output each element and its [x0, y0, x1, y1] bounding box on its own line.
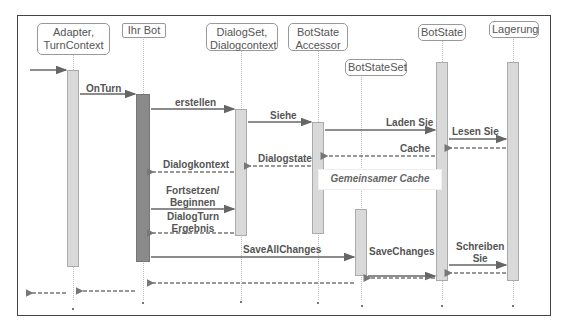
lifeline-end-adapter [72, 308, 74, 310]
lifeline-end-dialogset [240, 301, 242, 303]
lifeline-end-bot [142, 302, 144, 304]
msg-schreiben-line1: Schreiben [456, 241, 504, 253]
msg-laden: Laden Sie [386, 117, 433, 129]
msg-fortsetzen-line1: Fortsetzen/ [166, 185, 219, 197]
lifeline-end-botstate [441, 305, 443, 307]
msg-cache: Cache [400, 143, 430, 155]
msg-dialogkontext: Dialogkontext [163, 159, 229, 171]
msg-fortsetzen-line2: Beginnen [166, 197, 219, 209]
msg-erstellen: erstellen [175, 97, 216, 109]
msg-schreiben-line2: Sie [456, 253, 504, 265]
message-arrows [0, 0, 569, 332]
msg-schreiben: Schreiben Sie [456, 241, 504, 265]
msg-savechanges: SaveChanges [369, 246, 435, 258]
msg-saveallchanges: SaveAllChanges [243, 244, 321, 256]
msg-onturn: OnTurn [86, 83, 121, 95]
lifeline-end-accessor [317, 302, 319, 304]
msg-lesen: Lesen Sie [452, 126, 499, 138]
msg-fortsetzen: Fortsetzen/ Beginnen [166, 185, 219, 209]
msg-dialogturn-line2: Ergebnis [167, 223, 219, 235]
msg-siehe: Siehe [270, 110, 297, 122]
msg-dialogturn: DialogTurn Ergebnis [167, 211, 219, 235]
msg-dialogturn-line1: DialogTurn [167, 211, 219, 223]
lifeline-end-lagerung [512, 305, 514, 307]
lifeline-end-botstateset [361, 305, 363, 307]
msg-dialogstate: Dialogstate [258, 153, 312, 165]
